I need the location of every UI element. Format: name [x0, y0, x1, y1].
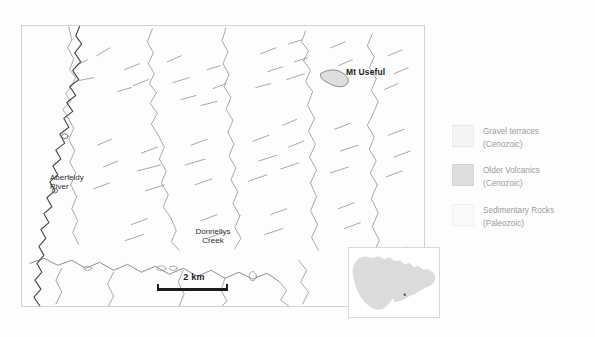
legend-swatch-sedimentary-rocks: [452, 204, 474, 226]
aberfeldy-river-line: [34, 26, 82, 306]
legend: Gravel terraces (Cenozoic) Older Volcani…: [452, 125, 582, 243]
inset-map[interactable]: [348, 247, 440, 318]
legend-swatch-gravel-terraces: [452, 125, 474, 147]
figure-root: Mt Useful Aberfeldy River Donnellys Cree…: [0, 0, 595, 337]
scale-bar-label: 2 km: [157, 272, 231, 282]
scale-bar-tick-left: [157, 284, 159, 290]
scale-bar-tick-right: [226, 284, 228, 290]
scale-bar: 2 km: [157, 272, 231, 294]
legend-label-older-volcanics: Older Volcanics (Cenozoic): [483, 164, 540, 190]
legend-swatch-older-volcanics: [452, 164, 474, 186]
legend-item-sedimentary-rocks[interactable]: Sedimentary Rocks (Paleozoic): [452, 204, 582, 230]
legend-label-gravel-terraces: Gravel terraces (Cenozoic): [483, 125, 539, 151]
scale-bar-line: [157, 288, 228, 291]
victoria-outline: [349, 248, 439, 317]
study-area-marker: [404, 293, 406, 295]
legend-item-older-volcanics[interactable]: Older Volcanics (Cenozoic): [452, 164, 582, 190]
legend-item-gravel-terraces[interactable]: Gravel terraces (Cenozoic): [452, 125, 582, 151]
mt-useful-volcanic-polygon: [320, 70, 348, 87]
legend-label-sedimentary-rocks: Sedimentary Rocks (Paleozoic): [483, 204, 554, 230]
